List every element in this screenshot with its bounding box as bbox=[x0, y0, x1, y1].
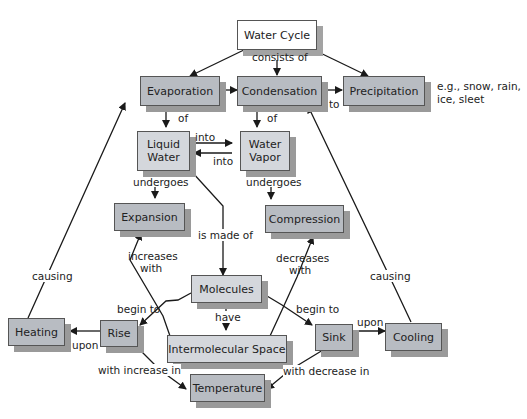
label-with-decrease-in: with decrease in bbox=[283, 365, 369, 377]
node-heating: Heating bbox=[8, 318, 65, 346]
concept-map: Water Cycle Evaporation Condensation Pre… bbox=[0, 0, 527, 419]
liquid-water-line-2: Water bbox=[147, 151, 180, 164]
node-condensation: Condensation bbox=[237, 76, 322, 106]
label-decreases: decreases bbox=[276, 252, 329, 264]
label-consists-of: consists of bbox=[252, 51, 308, 63]
label-begin-to-left: begin to bbox=[117, 303, 160, 315]
label-of-evaporation: of bbox=[178, 112, 188, 124]
node-cooling: Cooling bbox=[385, 323, 442, 351]
label-causing-right: causing bbox=[370, 270, 411, 282]
node-evaporation: Evaporation bbox=[140, 76, 220, 106]
label-increases: increases bbox=[128, 250, 178, 262]
node-temperature: Temperature bbox=[190, 374, 265, 402]
note-line-2: ice, sleet bbox=[437, 93, 521, 106]
label-into-top: into bbox=[195, 131, 215, 143]
node-precipitation: Precipitation bbox=[343, 76, 425, 106]
node-liquid-water: Liquid Water bbox=[137, 131, 190, 171]
label-into-bottom: into bbox=[213, 155, 233, 167]
label-is-made-of: is made of bbox=[198, 229, 253, 241]
label-causing-left: causing bbox=[32, 270, 73, 282]
node-intermolecular-space: Intermolecular Space bbox=[167, 335, 287, 363]
precipitation-examples: e.g., snow, rain, ice, sleet bbox=[437, 80, 521, 106]
label-of-condensation: of bbox=[267, 112, 277, 124]
label-upon-right: upon bbox=[357, 316, 383, 328]
label-undergoes-right: undergoes bbox=[246, 176, 302, 188]
label-decreases-with: with bbox=[289, 264, 311, 276]
node-sink: Sink bbox=[315, 324, 353, 351]
node-molecules: Molecules bbox=[191, 275, 262, 303]
water-vapor-line-2: Vapor bbox=[249, 151, 281, 164]
label-upon-left: upon bbox=[72, 339, 98, 351]
node-rise: Rise bbox=[100, 320, 138, 347]
liquid-water-line-1: Liquid bbox=[147, 138, 180, 151]
note-line-1: e.g., snow, rain, bbox=[437, 80, 521, 93]
label-have: have bbox=[215, 311, 241, 323]
node-water-cycle: Water Cycle bbox=[237, 20, 317, 50]
label-undergoes-left: undergoes bbox=[133, 176, 189, 188]
node-compression: Compression bbox=[265, 205, 344, 233]
label-begin-to-right: begin to bbox=[296, 303, 339, 315]
label-with-increase-in: with increase in bbox=[98, 364, 181, 376]
label-increases-with: with bbox=[140, 262, 162, 274]
node-water-vapor: Water Vapor bbox=[240, 131, 290, 171]
water-vapor-line-1: Water bbox=[249, 138, 282, 151]
node-expansion: Expansion bbox=[114, 203, 185, 231]
label-to: to bbox=[329, 98, 340, 110]
